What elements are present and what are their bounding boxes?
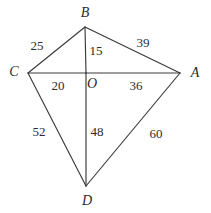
vertex-label-d: D	[82, 194, 92, 208]
length-label-oa: 36	[130, 79, 143, 92]
length-label-da: 60	[150, 127, 163, 140]
vertex-label-o: O	[87, 77, 97, 91]
length-label-cd: 52	[33, 125, 46, 138]
vertex-label-b: B	[81, 6, 90, 20]
length-label-od: 48	[91, 125, 104, 138]
length-label-co: 20	[52, 79, 65, 92]
figure-canvas	[0, 0, 211, 213]
vertex-label-c: C	[9, 65, 18, 79]
length-label-bo: 15	[90, 44, 103, 57]
geometry-figure: 2539152036524860BCADO	[0, 0, 211, 213]
segment-layer	[28, 27, 180, 186]
length-label-ba: 39	[137, 36, 150, 49]
vertex-label-a: A	[191, 66, 200, 80]
segment-bo	[85, 27, 86, 73]
length-label-bc: 25	[31, 39, 44, 52]
